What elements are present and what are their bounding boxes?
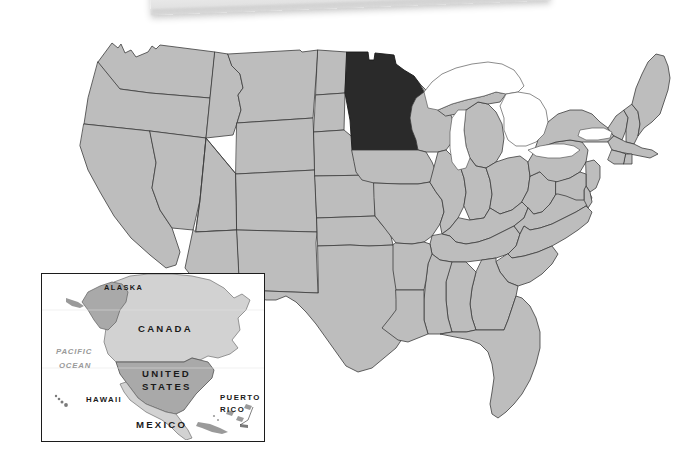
inset-label-mexico: MEXICO xyxy=(136,420,187,430)
inset-label-pacific-ocean-line2: OCEAN xyxy=(59,361,91,371)
state-new-jersey[interactable] xyxy=(586,160,600,192)
state-north-dakota[interactable] xyxy=(316,50,347,95)
inset-label-hawaii: HAWAII xyxy=(86,396,122,404)
state-colorado[interactable] xyxy=(236,170,317,232)
inset-label-puerto-rico-line2: RICO xyxy=(220,406,245,414)
state-kansas[interactable] xyxy=(315,175,375,218)
map-canvas: ALASKA CANADA PACIFIC OCEAN UNITED STATE… xyxy=(0,0,687,470)
state-iowa[interactable] xyxy=(352,150,436,184)
inset-label-united-states-line1: UNITED xyxy=(142,369,191,379)
inset-label-alaska: ALASKA xyxy=(104,284,143,292)
inset-label-puerto-rico-line1: PUERTO xyxy=(220,394,261,402)
inset-label-pacific-ocean-line1: PACIFIC xyxy=(56,347,92,357)
north-america-inset: ALASKA CANADA PACIFIC OCEAN UNITED STATE… xyxy=(41,273,265,442)
state-minnesota-highlighted[interactable] xyxy=(345,52,424,150)
inset-map-graphic xyxy=(42,274,264,440)
inset-label-canada: CANADA xyxy=(138,324,193,334)
inset-label-united-states-line2: STATES xyxy=(142,382,192,392)
state-south-dakota[interactable] xyxy=(314,93,345,132)
lake-ontario xyxy=(578,128,612,140)
state-wyoming[interactable] xyxy=(236,118,315,174)
